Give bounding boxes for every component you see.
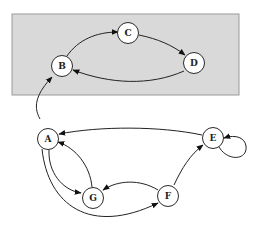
edge-f-to-e: [174, 145, 203, 185]
node-b[interactable]: B: [52, 56, 73, 77]
node-b-label: B: [58, 61, 66, 71]
node-d[interactable]: D: [184, 53, 205, 74]
edge-e-to-a: [59, 128, 202, 135]
edge-f-to-g: [103, 182, 158, 190]
node-c[interactable]: C: [118, 23, 139, 44]
node-d-label: D: [190, 58, 198, 68]
node-c-label: C: [124, 28, 131, 38]
edge-g-to-a: [58, 142, 92, 187]
node-f-label: F: [165, 191, 172, 201]
node-e-label: E: [210, 133, 217, 143]
node-f[interactable]: F: [158, 186, 179, 207]
node-a[interactable]: A: [38, 129, 59, 150]
graph-canvas: A B C D E F G: [0, 0, 257, 236]
node-g-label: G: [89, 193, 97, 203]
node-a-label: A: [44, 134, 53, 144]
node-e[interactable]: E: [203, 128, 224, 149]
node-g[interactable]: G: [83, 188, 104, 209]
